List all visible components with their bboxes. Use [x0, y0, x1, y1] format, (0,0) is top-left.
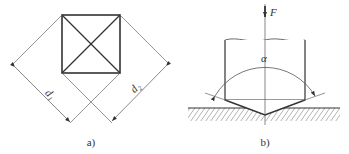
force-label: F — [269, 6, 277, 18]
figure-b-indenter: F α b) — [188, 4, 340, 149]
caption-a: a) — [87, 136, 96, 149]
d1-label: d₁ — [43, 86, 58, 101]
angle-label: α — [261, 52, 267, 64]
d1-dimension-line — [15, 67, 70, 122]
figure-a-vickers-indentation: d₁ d₂ a) — [12, 15, 168, 149]
d2-dimension-line — [112, 66, 166, 121]
caption-b: b) — [260, 136, 270, 149]
diagram-canvas: d₁ d₂ a) F α b) — [0, 0, 349, 154]
d2-label: d₂ — [128, 80, 143, 95]
extension-lines — [12, 15, 168, 123]
